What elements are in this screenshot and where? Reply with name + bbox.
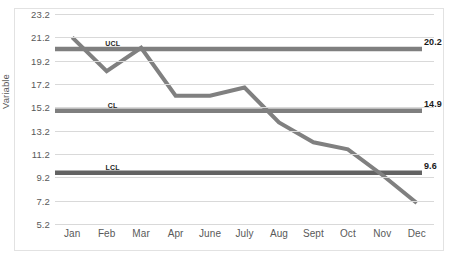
- plot-area: UCL20.2CL14.9LCL9.6: [55, 14, 434, 224]
- x-axis-tick-label: Nov: [373, 228, 391, 239]
- gridline: [55, 131, 434, 132]
- x-axis-tick-label: Feb: [98, 228, 116, 239]
- x-axis-tick-label: Oct: [340, 228, 356, 239]
- gridline: [55, 177, 434, 178]
- x-axis-tick-label: Aug: [270, 228, 288, 239]
- gridline: [55, 154, 434, 155]
- x-axis-tick-label: Dec: [408, 228, 426, 239]
- cl-value-label: 14.9: [424, 99, 442, 109]
- ucl-value-label: 20.2: [424, 37, 442, 47]
- y-axis-tick-label: 23.2: [31, 9, 50, 20]
- gridline: [55, 224, 434, 225]
- gridline: [55, 37, 434, 38]
- x-axis-tick-label: July: [235, 228, 253, 239]
- y-axis-tick-label: 21.2: [31, 32, 50, 43]
- gridline: [55, 61, 434, 62]
- lcl-tag: LCL: [106, 164, 120, 171]
- y-axis: Variable 23.221.219.217.215.213.211.29.2…: [14, 14, 50, 224]
- ucl-tag: UCL: [105, 40, 120, 47]
- y-axis-tick-label: 15.2: [31, 102, 50, 113]
- y-axis-tick-label: 19.2: [31, 55, 50, 66]
- y-axis-title: Variable: [0, 74, 11, 109]
- y-axis-tick-label: 9.2: [36, 172, 50, 183]
- gridline: [55, 14, 434, 15]
- x-axis-tick-label: June: [199, 228, 221, 239]
- cl-tag: CL: [108, 102, 118, 109]
- lcl-value-label: 9.6: [424, 161, 437, 171]
- x-axis-tick-label: Jan: [64, 228, 80, 239]
- x-axis: JanFebMarAprJuneJulyAugSeptOctNovDec: [55, 228, 434, 246]
- y-axis-tick-label: 5.2: [36, 219, 50, 230]
- x-axis-tick-label: Apr: [168, 228, 184, 239]
- control-chart: Variable 23.221.219.217.215.213.211.29.2…: [0, 0, 457, 263]
- gridline: [55, 84, 434, 85]
- x-axis-tick-label: Mar: [132, 228, 150, 239]
- y-axis-tick-label: 13.2: [31, 125, 50, 136]
- gridline: [55, 201, 434, 202]
- y-axis-tick-label: 7.2: [36, 195, 50, 206]
- y-axis-tick-label: 11.2: [32, 149, 50, 160]
- x-axis-tick-label: Sept: [303, 228, 324, 239]
- y-axis-tick-label: 17.2: [31, 79, 50, 90]
